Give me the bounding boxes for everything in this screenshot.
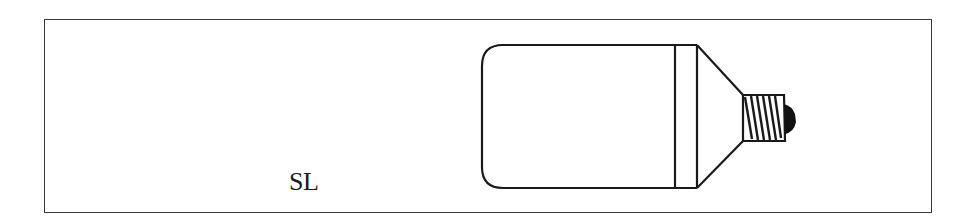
lamp-illustration xyxy=(0,0,968,224)
bulb-neck-top xyxy=(697,45,743,95)
bulb-neck-bottom xyxy=(697,141,743,188)
bulb-body xyxy=(482,45,697,188)
contact-tip xyxy=(784,104,796,134)
lamp-type-label: SL xyxy=(289,169,318,195)
screw-base xyxy=(743,95,796,141)
